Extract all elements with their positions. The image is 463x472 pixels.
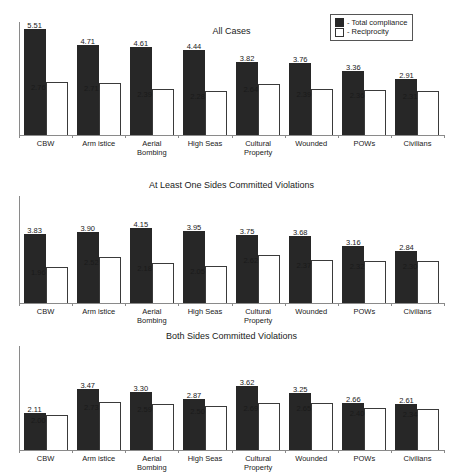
bar-total-compliance[interactable]: 3.68 xyxy=(289,236,311,303)
bar-reciprocity[interactable]: 2.34 xyxy=(417,409,439,450)
bar-total-compliance[interactable]: 5.51 xyxy=(24,29,46,135)
bar-value-label: 2.05 xyxy=(190,268,205,276)
bar-total-compliance[interactable]: 3.90 xyxy=(77,232,99,303)
bar-reciprocity[interactable]: 1.96 xyxy=(46,267,68,303)
bar-value-label: 4.15 xyxy=(134,221,149,229)
x-axis-tick xyxy=(232,450,233,453)
bar-value-label: 2.37 xyxy=(297,262,312,270)
chart-panel-all-cases: All Cases 5.512.764.712.714.612.394.442.… xyxy=(0,0,463,168)
bar-reciprocity[interactable]: 2.76 xyxy=(46,82,68,135)
bar-reciprocity[interactable]: 2.00 xyxy=(46,415,68,450)
bar-reciprocity[interactable]: 2.59 xyxy=(152,404,174,450)
bar-reciprocity[interactable]: 2.28 xyxy=(205,91,227,135)
bar-value-label: 3.47 xyxy=(80,382,95,390)
bar-value-label: 2.00 xyxy=(31,417,46,425)
bar-group: 3.162.32 xyxy=(342,246,386,303)
bar-reciprocity[interactable]: 2.30 xyxy=(417,261,439,303)
bar-reciprocity[interactable]: 2.05 xyxy=(205,266,227,303)
x-axis-tick xyxy=(338,303,339,306)
bar-total-compliance[interactable]: 3.36 xyxy=(342,71,364,135)
bar-value-label: 4.71 xyxy=(80,38,95,46)
bar-value-label: 3.90 xyxy=(80,225,95,233)
bar-total-compliance[interactable]: 3.76 xyxy=(289,63,311,135)
x-axis-tick xyxy=(338,135,339,138)
bar-value-label: 2.39 xyxy=(137,91,152,99)
bar-value-label: 2.34 xyxy=(403,411,418,419)
bar-value-label: 3.30 xyxy=(134,385,149,393)
x-axis-tick xyxy=(19,135,20,138)
bar-total-compliance[interactable]: 3.82 xyxy=(236,62,258,135)
x-axis-category-label: Arm istice xyxy=(72,140,125,149)
bar-total-compliance[interactable]: 2.84 xyxy=(395,251,417,303)
bar-reciprocity[interactable]: 2.69 xyxy=(258,403,280,450)
bar-reciprocity[interactable]: 2.39 xyxy=(311,89,333,135)
bar-value-label: 2.18 xyxy=(137,265,152,273)
bar-reciprocity[interactable]: 2.32 xyxy=(364,261,386,303)
bar-value-label: 3.36 xyxy=(346,64,361,72)
x-axis-tick xyxy=(125,135,126,138)
x-axis-category-label: POWs xyxy=(338,308,391,317)
bar-value-label: 2.69 xyxy=(243,405,258,413)
bar-reciprocity[interactable]: 2.65 xyxy=(311,403,333,450)
x-axis-category-label: Wounded xyxy=(285,140,338,149)
x-axis-tick xyxy=(391,303,392,306)
bar-value-label: 3.76 xyxy=(293,56,308,64)
bar-reciprocity[interactable]: 2.18 xyxy=(152,263,174,303)
bar-reciprocity[interactable]: 2.40 xyxy=(364,408,386,450)
x-axis-category-label: Wounded xyxy=(285,308,338,317)
bar-reciprocity[interactable]: 2.62 xyxy=(258,255,280,303)
bar-total-compliance[interactable]: 3.30 xyxy=(130,392,152,450)
bar-group: 2.842.30 xyxy=(395,251,439,303)
x-axis-tick xyxy=(391,135,392,138)
x-axis-category-label: POWs xyxy=(338,455,391,464)
bar-total-compliance[interactable]: 3.62 xyxy=(236,386,258,450)
x-axis-category-label: High Seas xyxy=(178,140,231,149)
bar-reciprocity[interactable]: 2.31 xyxy=(417,91,439,135)
x-axis-category-label: Aerial Bombing xyxy=(125,455,178,472)
bar-group: 3.472.73 xyxy=(77,389,121,450)
x-axis-category-label: Aerial Bombing xyxy=(125,140,178,157)
bar-total-compliance[interactable]: 3.16 xyxy=(342,246,364,303)
bar-value-label: 2.11 xyxy=(28,406,42,414)
bar-reciprocity[interactable]: 2.64 xyxy=(258,84,280,135)
bar-reciprocity[interactable]: 2.71 xyxy=(99,83,121,135)
bar-reciprocity[interactable]: 2.50 xyxy=(205,406,227,450)
x-axis-tick xyxy=(178,450,179,453)
bar-value-label: 2.59 xyxy=(137,406,152,414)
x-axis-tick xyxy=(444,303,445,306)
bar-group: 5.512.76 xyxy=(24,29,68,135)
bar-value-label: 5.51 xyxy=(27,22,42,30)
x-axis-category-label: Civilians xyxy=(391,140,444,149)
plot-area-0: 5.512.764.712.714.612.394.442.283.822.64… xyxy=(19,22,444,135)
y-axis-1 xyxy=(19,196,20,303)
bar-value-label: 2.76 xyxy=(31,84,46,92)
bar-total-compliance[interactable]: 3.75 xyxy=(236,235,258,303)
x-axis-category-label: Civilians xyxy=(391,308,444,317)
x-axis-tick xyxy=(444,450,445,453)
x-axis-tick xyxy=(72,135,73,138)
bar-reciprocity[interactable]: 2.39 xyxy=(152,89,174,135)
bar-group: 4.442.28 xyxy=(183,50,227,135)
bar-total-compliance[interactable]: 3.47 xyxy=(77,389,99,450)
bar-total-compliance[interactable]: 2.91 xyxy=(395,79,417,135)
bar-value-label: 1.96 xyxy=(31,269,46,277)
bar-value-label: 2.64 xyxy=(243,86,258,94)
x-axis-tick xyxy=(285,303,286,306)
bar-reciprocity[interactable]: 2.52 xyxy=(99,257,121,303)
bar-reciprocity[interactable]: 2.73 xyxy=(99,402,121,450)
chart-title-2: Both Sides Committed Violations xyxy=(0,331,463,341)
bar-group: 2.912.31 xyxy=(395,79,439,135)
x-axis-tick xyxy=(444,135,445,138)
bar-total-compliance[interactable]: 3.25 xyxy=(289,393,311,450)
bar-value-label: 2.73 xyxy=(84,404,99,412)
bar-reciprocity[interactable]: 2.37 xyxy=(311,260,333,303)
bar-value-label: 2.62 xyxy=(243,257,258,265)
bar-reciprocity[interactable]: 2.36 xyxy=(364,90,386,135)
x-axis-category-label: POWs xyxy=(338,140,391,149)
bar-group: 3.752.62 xyxy=(236,235,280,303)
bar-value-label: 2.84 xyxy=(399,244,414,252)
plot-area-1: 3.831.963.902.524.152.183.952.053.752.62… xyxy=(19,196,444,303)
bar-value-label: 2.30 xyxy=(403,263,418,271)
bar-value-label: 3.95 xyxy=(187,224,202,232)
